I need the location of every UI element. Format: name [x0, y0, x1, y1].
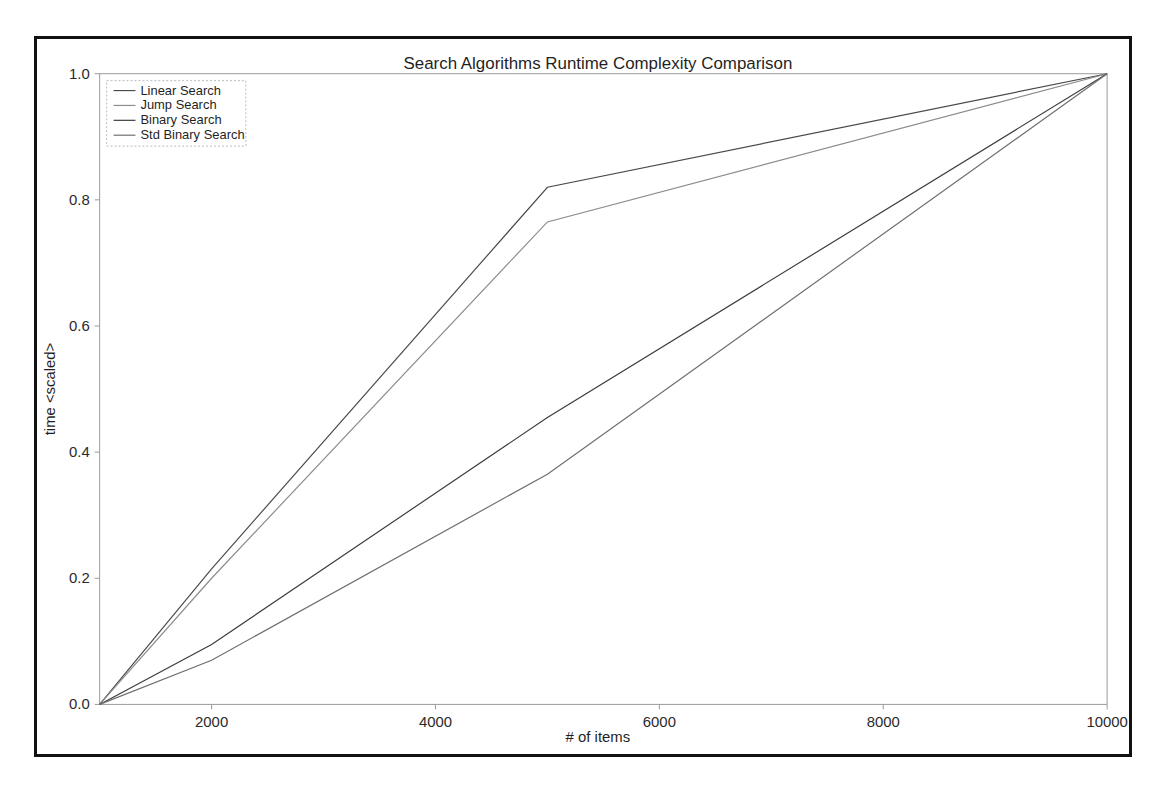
y-tick-label: 0.0 [69, 696, 90, 712]
legend-label-0: Linear Search [140, 83, 220, 98]
series-line-binary-search [100, 74, 1107, 705]
x-tick-label: 4000 [419, 714, 452, 730]
y-tick-label: 0.4 [69, 444, 90, 460]
x-axis-title: # of items [566, 729, 631, 745]
y-tick-label: 0.2 [69, 570, 90, 586]
chart-title: Search Algorithms Runtime Complexity Com… [403, 54, 792, 73]
y-tick-label: 0.6 [69, 318, 90, 334]
series-group [100, 74, 1107, 705]
series-line-std-binary-search [100, 74, 1107, 705]
x-tick-label: 8000 [867, 714, 900, 730]
y-tick-label: 1.0 [69, 66, 90, 82]
x-tick-label: 6000 [643, 714, 676, 730]
y-ticks-group: 0.00.20.40.60.81.0 [69, 66, 100, 713]
series-line-jump-search [100, 74, 1107, 705]
legend-label-2: Binary Search [140, 112, 221, 127]
x-tick-label: 2000 [195, 714, 228, 730]
series-line-linear-search [100, 74, 1107, 705]
legend-label-1: Jump Search [140, 97, 216, 112]
legend-label-3: Std Binary Search [140, 127, 244, 142]
runtime-complexity-line-chart: Search Algorithms Runtime Complexity Com… [37, 39, 1129, 754]
x-ticks-group: 200040006000800010000 [195, 704, 1128, 730]
axes-group [100, 74, 1107, 705]
figure-frame: Search Algorithms Runtime Complexity Com… [34, 36, 1132, 757]
x-tick-label: 10000 [1086, 714, 1127, 730]
legend-group[interactable]: Linear SearchJump SearchBinary SearchStd… [107, 81, 246, 146]
y-axis-title: time <scaled> [42, 343, 58, 435]
y-tick-label: 0.8 [69, 192, 90, 208]
